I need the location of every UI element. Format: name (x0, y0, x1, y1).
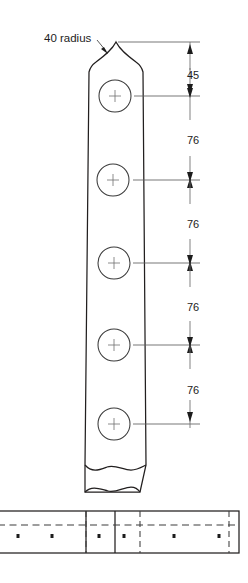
dimension-group: 45 76 76 (187, 42, 199, 428)
fastener-dot (173, 534, 176, 538)
hole-5 (98, 408, 130, 440)
rail-outline (0, 511, 239, 553)
hole-group (97, 80, 131, 440)
fastener-dot (218, 534, 221, 538)
hole-center-mark (109, 90, 121, 102)
post-outline-group (85, 42, 146, 492)
dim-label-76-1: 76 (187, 134, 199, 146)
dim-label-76-2: 76 (187, 218, 199, 230)
break-line-group (85, 465, 146, 492)
hole-center-mark (108, 339, 120, 351)
post-break-upper-icon (85, 465, 146, 470)
post-elevation-svg: 45 76 76 (0, 0, 248, 583)
dim-arrow-up (187, 172, 193, 182)
radius-leader-arrow (101, 47, 108, 54)
fastener-dot (17, 534, 20, 538)
dim-arrow-up (187, 337, 193, 347)
dim-label-76-4: 76 (187, 384, 199, 396)
dim-arrow-up (187, 88, 193, 98)
post-break-lower-icon (85, 487, 140, 492)
dim-arrow-up (187, 255, 193, 265)
hole-4 (98, 329, 130, 361)
fastener-dot (98, 534, 101, 538)
dim-arrow-down (187, 412, 193, 422)
dim-label-45: 45 (187, 69, 199, 81)
technical-drawing-canvas: 45 76 76 (0, 0, 248, 583)
hole-center-mark (108, 257, 120, 269)
radius-note-label: 40 radius (44, 32, 92, 44)
hole-2 (97, 164, 129, 196)
hole-3 (98, 247, 130, 279)
post-outline (85, 42, 146, 492)
hole-center-mark (108, 418, 120, 430)
dim-label-76-3: 76 (187, 301, 199, 313)
fastener-dot (123, 534, 126, 538)
hole-center-mark (107, 174, 119, 186)
dimension-45: 45 (187, 42, 199, 96)
dim-arrow-down (187, 44, 193, 54)
rail-group (0, 511, 239, 553)
radius-note-group: 40 radius (44, 32, 108, 54)
hole-1 (99, 80, 131, 112)
fastener-dot (51, 534, 54, 538)
